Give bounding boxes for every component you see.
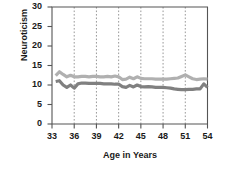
- x-tick-label: 39: [86, 132, 106, 141]
- x-axis-title: Age in Years: [52, 150, 208, 160]
- neuroticism-by-age-chart: Neuroticism Age in Years 051015202530 33…: [0, 0, 233, 178]
- x-tick-label: 45: [131, 132, 151, 141]
- tick-marks-group: [48, 7, 208, 129]
- gridlines-group: [74, 7, 185, 124]
- y-tick-label: 0: [20, 119, 42, 128]
- data-series-group: [56, 72, 208, 90]
- y-axis-title-container: Neuroticism: [0, 10, 16, 126]
- y-tick-label: 15: [20, 61, 42, 70]
- x-tick-label: 48: [153, 132, 173, 141]
- y-tick-label: 25: [20, 22, 42, 31]
- x-tick-label: 36: [64, 132, 84, 141]
- y-tick-label: 20: [20, 41, 42, 50]
- x-tick-label: 54: [198, 132, 218, 141]
- x-tick-label: 51: [175, 132, 195, 141]
- y-tick-label: 5: [20, 100, 42, 109]
- axes-group: [52, 7, 208, 124]
- data-line-upper-line: [56, 72, 208, 80]
- y-tick-label: 30: [20, 2, 42, 11]
- y-tick-label: 10: [20, 80, 42, 89]
- plot-frame: [52, 7, 208, 124]
- x-tick-label: 33: [42, 132, 62, 141]
- x-tick-label: 42: [109, 132, 129, 141]
- data-line-lower-line: [56, 81, 208, 90]
